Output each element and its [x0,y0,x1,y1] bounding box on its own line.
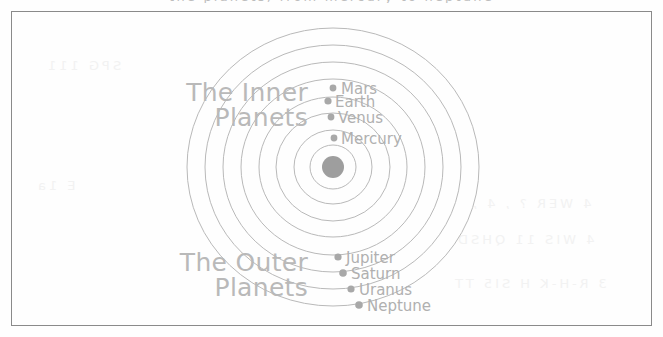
planet-label-jupiter: Jupiter [346,251,395,266]
planet-dot-mars [330,85,337,92]
inner-planets-heading: The Inner Planets [118,80,308,130]
planet-label-venus: Venus [338,111,383,126]
planet-label-uranus: Uranus [359,283,412,298]
planet-dot-saturn [339,269,347,277]
planet-dot-venus [328,114,335,121]
solar-system-diagram-page: the planets, from mercury to neptune 4 W… [0,0,663,337]
planet-dot-mercury [331,135,338,142]
sun-body [322,156,344,178]
planet-label-mercury: Mercury [341,132,402,147]
planet-label-saturn: Saturn [351,267,401,282]
planet-label-mars: Mars [341,82,377,97]
planet-dot-uranus [347,285,354,292]
outer-planets-heading-line2: Planets [118,275,308,300]
planet-label-neptune: Neptune [367,299,431,314]
planet-dot-neptune [355,301,363,309]
orbit-rings-and-bodies [0,0,663,337]
planet-dot-jupiter [334,253,341,260]
inner-planets-heading-line2: Planets [118,105,308,130]
outer-planets-heading: The Outer Planets [118,250,308,300]
planet-dot-earth [324,97,331,104]
